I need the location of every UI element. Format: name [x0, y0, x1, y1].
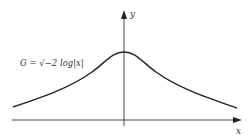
x-axis-arrow-icon [233, 117, 242, 123]
formula-label: G = √−2 log|x| [20, 58, 84, 69]
y-axis-label: y [129, 9, 136, 19]
bell-curve-diagram: y x G = √−2 log|x| [0, 0, 251, 139]
y-axis-arrow-icon [121, 10, 127, 19]
x-axis-label: x [236, 126, 241, 136]
